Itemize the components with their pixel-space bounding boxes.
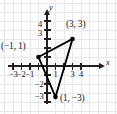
y-tick-label-3: 3 [38, 29, 42, 38]
vertex-label-neg1-1: (−1, 1) [1, 42, 26, 52]
y-tick-label-neg2: −2 [35, 80, 43, 89]
x-tick-label-1: 1 [54, 70, 58, 79]
plot-canvas [0, 0, 117, 114]
vertex-marker-neg1-1 [36, 55, 41, 60]
coordinate-plane-figure: y x 4 3 −2 −3 −3 −2 −1 1 3 4 (−1, 1) (3,… [0, 0, 117, 114]
grid-lines [0, 0, 117, 114]
y-axis-label: y [49, 3, 53, 12]
y-tick-label-neg3: −3 [35, 92, 43, 101]
x-tick-label-4: 4 [79, 70, 83, 79]
vertex-marker-1-neg3 [53, 95, 58, 100]
vertex-marker-3-3 [70, 37, 75, 42]
x-tick-label-3: 3 [71, 70, 75, 79]
x-tick-label-neg2: −2 [17, 70, 25, 79]
x-axis-label: x [106, 58, 110, 67]
vertex-label-3-3: (3, 3) [66, 20, 85, 30]
vertex-label-1-neg3: (1, −3) [60, 94, 85, 104]
x-tick-label-neg1: −1 [26, 70, 34, 79]
